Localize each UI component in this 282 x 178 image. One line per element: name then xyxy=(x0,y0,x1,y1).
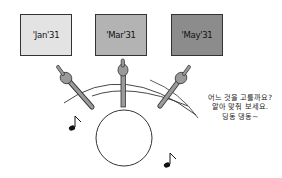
pointer-hand-mar xyxy=(118,59,128,107)
music-note-icon xyxy=(163,153,176,168)
caption-line-2: 알아 맞춰 보세요. xyxy=(200,102,280,111)
music-note-icon xyxy=(68,116,81,131)
pointer-hand-jan xyxy=(58,67,92,107)
illustration xyxy=(0,0,282,178)
caption-line-1: 어느 것을 고를까요? xyxy=(200,93,280,102)
center-circle xyxy=(96,110,152,166)
caption-line-3: 딩동 댕동~ xyxy=(200,112,280,121)
caption-text: 어느 것을 고를까요? 알아 맞춰 보세요. 딩동 댕동~ xyxy=(200,93,280,121)
